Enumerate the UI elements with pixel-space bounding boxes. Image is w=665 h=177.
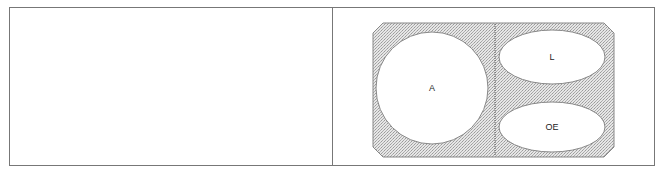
shape-oe: OE <box>499 102 605 152</box>
shape-a: A <box>376 32 488 144</box>
diagram: A L OE <box>0 0 665 177</box>
shape-oe-label: OE <box>545 122 558 132</box>
shape-l-label: L <box>549 52 554 62</box>
shape-l: L <box>499 30 605 84</box>
shape-a-label: A <box>429 83 435 93</box>
